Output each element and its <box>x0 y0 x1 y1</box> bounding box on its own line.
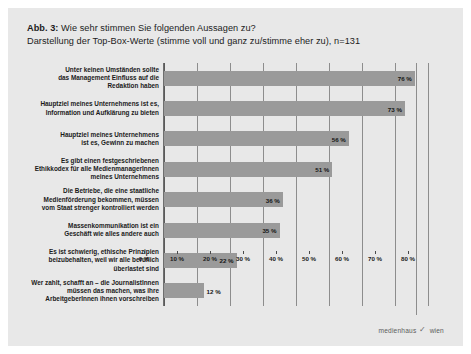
bar[interactable]: 76 % <box>164 71 415 86</box>
x-tick-mark-0 <box>144 251 145 254</box>
figure-title-line-1: Abb. 3: Wie sehr stimmen Sie folgenden A… <box>27 22 447 35</box>
category-label-line: überlastet sind <box>27 265 159 273</box>
category-label-line: Unter keinen Umständen sollte <box>27 66 159 74</box>
x-tick-mark-10 <box>177 251 178 254</box>
x-tick-label-80: 80 % <box>401 255 415 262</box>
gridline-60 <box>362 63 363 306</box>
category-labels-column: Unter keinen Umständen solltedas Managem… <box>27 63 163 306</box>
category-label-line: Massenkommunikation ist ein <box>27 222 159 230</box>
brand-name: medienhaus <box>378 327 416 334</box>
figure-panel: Abb. 3: Wie sehr stimmen Sie folgenden A… <box>8 8 463 346</box>
x-tick-label-60: 60 % <box>335 255 349 262</box>
category-label: Wer zahlt, schafft an – die JournalistIn… <box>27 279 159 304</box>
category-label-line: Hauptziel meines Unternehmens <box>27 131 159 139</box>
x-tick-label-30: 30 % <box>236 255 250 262</box>
x-tick-label-10: 10 % <box>170 255 184 262</box>
gridline-50 <box>329 63 330 306</box>
x-tick-label-40: 40 % <box>269 255 283 262</box>
bar-value-label: 12 % <box>207 287 221 294</box>
category-label-line: Redaktion haben <box>27 82 159 90</box>
bar-value-label: 56 % <box>332 135 346 142</box>
x-tick-label-0: 0 % <box>139 255 150 262</box>
category-label: Hauptziel meines Unternehmens ist es,Inf… <box>27 100 159 116</box>
plot-area: 76 %73 %56 %51 %36 %35 %22 %12 % <box>163 63 428 306</box>
category-label: Unter keinen Umständen solltedas Managem… <box>27 66 159 91</box>
gridline-70 <box>395 63 396 306</box>
x-tick-mark-20 <box>210 251 211 254</box>
bar-value-label: 35 % <box>262 227 276 234</box>
category-label-line: Wer zahlt, schafft an – die JournalistIn… <box>27 279 159 287</box>
plot-frame: Unter keinen Umständen solltedas Managem… <box>27 63 444 306</box>
x-tick-mark-40 <box>276 251 277 254</box>
bar[interactable]: 56 % <box>164 131 349 146</box>
category-label-line: das Management Einfluss auf die <box>27 74 159 82</box>
brand-city: wien <box>430 327 444 334</box>
category-label-line: Die Betriebe, die eine staatliche <box>27 187 159 195</box>
bar[interactable]: 35 % <box>164 223 280 238</box>
category-label: Hauptziel meines Unternehmensist es, Gew… <box>27 131 159 147</box>
x-tick-label-70: 70 % <box>368 255 382 262</box>
brand-footer: medienhaus ✓ wien <box>378 326 444 334</box>
bar-value-label: 36 % <box>266 196 280 203</box>
x-tick-mark-30 <box>243 251 244 254</box>
gridline-30 <box>263 63 264 306</box>
category-label-line: ArbeitgeberInnen ihnen vorschreiben <box>27 295 159 303</box>
category-label-line: müssen das machen, was ihre <box>27 287 159 295</box>
x-tick-label-50: 50 % <box>302 255 316 262</box>
bar-value-label: 76 % <box>398 75 412 82</box>
figure-title-main: Wie sehr stimmen Sie folgenden Aussagen … <box>61 23 256 33</box>
bar[interactable]: 36 % <box>164 192 283 207</box>
x-axis: 0 %10 %20 %30 %40 %50 %60 %70 %80 % <box>144 251 408 267</box>
gridline-0 <box>164 63 165 306</box>
category-label-line: Information und Aufklärung zu bieten <box>27 109 159 117</box>
bar-value-label: 51 % <box>315 166 329 173</box>
category-label-line: ist es, Gewinn zu machen <box>27 139 159 147</box>
x-tick-mark-80 <box>408 251 409 254</box>
gridline-40 <box>296 63 297 306</box>
x-tick-mark-50 <box>309 251 310 254</box>
gridline-10 <box>197 63 198 306</box>
gridline-80 <box>428 63 429 306</box>
x-tick-label-20: 20 % <box>203 255 217 262</box>
category-label-line: Medienförderung bekommen, müssen <box>27 196 159 204</box>
bar[interactable]: 51 % <box>164 162 332 177</box>
x-tick-mark-60 <box>342 251 343 254</box>
bar[interactable]: 73 % <box>164 101 405 116</box>
category-label: Es gibt einen festgeschriebenenEthikkode… <box>27 157 159 182</box>
category-label: Die Betriebe, die eine staatlicheMedienf… <box>27 187 159 212</box>
category-label-line: Hauptziel meines Unternehmens ist es, <box>27 100 159 108</box>
bar[interactable]: 12 % <box>164 283 204 298</box>
category-label-line: vom Staat strenger kontrolliert werden <box>27 204 159 212</box>
bar-value-label: 73 % <box>388 105 402 112</box>
category-label-line: Ethikkodex für alle MedienmanagerInnen <box>27 165 159 173</box>
gridline-20 <box>230 63 231 306</box>
figure-title-block: Abb. 3: Wie sehr stimmen Sie folgenden A… <box>27 22 447 47</box>
category-label: Massenkommunikation ist einGeschäft wie … <box>27 222 159 238</box>
plot-right-rule <box>416 63 417 315</box>
figure-title-line-2: Darstellung der Top-Box-Werte (stimme vo… <box>27 35 447 48</box>
category-label-line: Geschäft wie alles andere auch <box>27 230 159 238</box>
figure-label: Abb. 3: <box>27 23 58 33</box>
category-label-line: Es gibt einen festgeschriebenen <box>27 157 159 165</box>
x-tick-mark-70 <box>375 251 376 254</box>
check-icon: ✓ <box>419 326 426 334</box>
category-label-line: meines Unternehmens <box>27 173 159 181</box>
